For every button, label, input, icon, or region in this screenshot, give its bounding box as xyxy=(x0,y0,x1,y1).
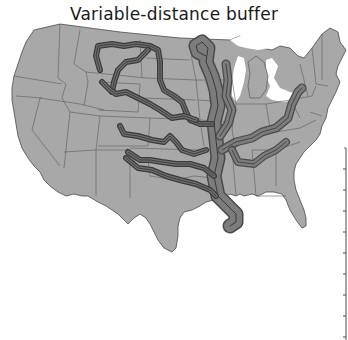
scale-bar xyxy=(343,148,346,340)
us-landmass xyxy=(12,24,346,252)
us-map xyxy=(0,0,348,340)
